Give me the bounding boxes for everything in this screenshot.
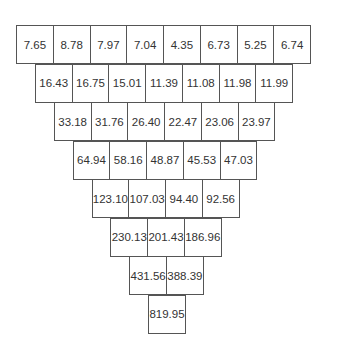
pyramid-cell: 7.65: [16, 25, 54, 64]
pyramid-row-8: 819.95: [148, 296, 186, 335]
pyramid-cell: 47.03: [220, 141, 258, 180]
pyramid-cell: 819.95: [148, 295, 186, 334]
pyramid-cell: 201.43: [147, 218, 185, 257]
pyramid-cell: 92.56: [202, 179, 240, 218]
pyramid-cell: 31.76: [91, 102, 129, 141]
pyramid-cell: 45.53: [183, 141, 221, 180]
pyramid-cell: 8.78: [53, 25, 91, 64]
pyramid-cell: 6.73: [200, 25, 238, 64]
pyramid-cell: 11.98: [219, 64, 257, 103]
pyramid-cell: 23.06: [201, 102, 239, 141]
pyramid-row-5: 123.10107.0394.4092.56: [92, 180, 240, 219]
pyramid-row-1: 7.658.787.977.044.356.735.256.74: [16, 26, 311, 65]
pyramid-row-6: 230.13201.43186.96: [110, 219, 221, 258]
pyramid-row-2: 16.4316.7515.0111.3911.0811.9811.99: [35, 65, 293, 104]
pyramid-cell: 186.96: [184, 218, 222, 257]
pyramid-cell: 64.94: [73, 141, 111, 180]
pyramid-row-7: 431.56388.39: [129, 257, 204, 296]
pyramid-cell: 7.97: [90, 25, 128, 64]
pyramid-cell: 431.56: [129, 256, 167, 295]
pyramid-cell: 107.03: [128, 179, 166, 218]
pyramid-cell: 388.39: [166, 256, 204, 295]
pyramid-row-3: 33.1831.7626.4022.4723.0623.97: [54, 103, 276, 142]
pyramid-row-4: 64.9458.1648.8745.5347.03: [73, 142, 258, 181]
pyramid-cell: 6.74: [273, 25, 311, 64]
pyramid-cell: 7.04: [126, 25, 164, 64]
pyramid-cell: 94.40: [165, 179, 203, 218]
pyramid-cell: 15.01: [108, 64, 146, 103]
pyramid-cell: 4.35: [163, 25, 201, 64]
pyramid-cell: 11.08: [182, 64, 220, 103]
pyramid-cell: 5.25: [237, 25, 275, 64]
pyramid-cell: 123.10: [92, 179, 130, 218]
pyramid-cell: 26.40: [127, 102, 165, 141]
pyramid-cell: 11.39: [145, 64, 183, 103]
number-pyramid: 7.658.787.977.044.356.735.256.7416.4316.…: [0, 0, 338, 361]
pyramid-cell: 16.75: [72, 64, 110, 103]
pyramid-cell: 22.47: [164, 102, 202, 141]
pyramid-cell: 48.87: [146, 141, 184, 180]
pyramid-cell: 16.43: [35, 64, 73, 103]
pyramid-cell: 23.97: [238, 102, 276, 141]
pyramid-cell: 230.13: [110, 218, 148, 257]
pyramid-cell: 58.16: [109, 141, 147, 180]
pyramid-cell: 33.18: [54, 102, 92, 141]
pyramid-cell: 11.99: [255, 64, 293, 103]
